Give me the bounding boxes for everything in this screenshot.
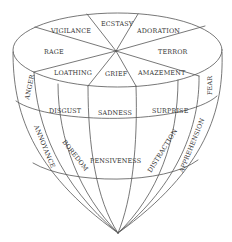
label-loathing: LOATHING [54,69,92,77]
label-terror: TERROR [158,48,188,56]
label-distraction: DISTRACTION [146,127,179,174]
label-pensiveness: PENSIVENESS [90,157,141,165]
label-fear: FEAR [206,76,214,95]
ring-1-labels: ANGER DISGUST SADNESS SURPRISE FEAR [23,74,214,117]
label-surprise: SURPRISE [152,107,189,115]
label-disgust: DISGUST [49,107,82,115]
label-adoration: ADORATION [136,27,180,35]
emotion-solid-diagram: ECSTASY ADORATION TERROR AMAZEMENT GRIEF… [0,0,232,242]
label-sadness: SADNESS [98,109,132,117]
label-rage: RAGE [44,48,64,56]
label-ecstasy: ECSTASY [101,20,134,28]
label-amazement: AMAZEMENT [137,69,186,77]
label-apprehension: APPREHENSION [177,117,207,175]
label-anger: ANGER [23,74,36,102]
ring-2-labels: ANNOYANCE BOREDOM PENSIVENESS DISTRACTIO… [32,117,207,175]
label-grief: GRIEF [105,70,128,78]
spoke-grief-loathing [88,51,116,86]
label-vigilance: VIGILANCE [50,27,91,35]
top-face-labels: ECSTASY ADORATION TERROR AMAZEMENT GRIEF… [44,20,188,78]
